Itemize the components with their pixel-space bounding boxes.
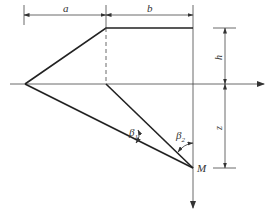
ray-from-corner bbox=[106, 84, 193, 168]
label-b: b bbox=[147, 2, 153, 14]
angle-beta2-arc bbox=[178, 143, 193, 152]
dimension-b: b bbox=[106, 2, 193, 28]
ray-from-left-apex bbox=[25, 84, 193, 168]
label-h: h bbox=[213, 55, 224, 60]
dimension-z: z bbox=[213, 84, 236, 168]
label-beta2: β2 bbox=[175, 129, 185, 144]
diagram-canvas: a b β1 β2 M h z bbox=[0, 0, 274, 213]
label-a: a bbox=[63, 2, 69, 14]
label-M: M bbox=[196, 162, 207, 174]
dimension-a: a bbox=[24, 2, 106, 25]
load-outline bbox=[25, 28, 193, 84]
label-z: z bbox=[213, 126, 224, 131]
geometry-diagram: a b β1 β2 M h z bbox=[0, 0, 274, 213]
dimension-h: h bbox=[213, 28, 236, 84]
